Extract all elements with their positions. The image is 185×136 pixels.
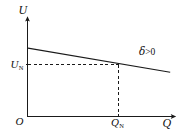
x-axis-label: Q <box>163 117 172 129</box>
slope-annotation: δ>0 <box>139 46 155 58</box>
origin-label: O <box>16 116 24 127</box>
voltage-droop-chart: U UN O QN Q δ>0 <box>0 0 185 136</box>
un-subscript: N <box>19 64 24 71</box>
y-axis-label: U <box>19 4 28 16</box>
qn-subscript: N <box>119 122 124 129</box>
chart-canvas <box>0 0 185 136</box>
x-axis-group <box>28 114 177 119</box>
delta-relation: >0 <box>145 47 155 57</box>
y-axis-group <box>25 16 30 117</box>
un-base: U <box>11 58 19 70</box>
x-axis-tick-label-qn: QN <box>111 117 124 128</box>
qn-base: Q <box>111 116 119 128</box>
y-axis-tick-label-un: UN <box>11 59 24 70</box>
